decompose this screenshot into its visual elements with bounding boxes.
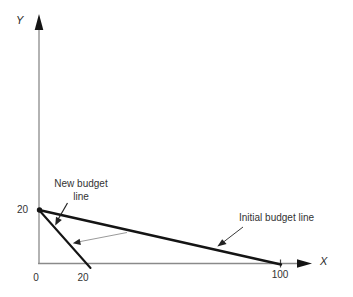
- chart-canvas: [0, 0, 353, 297]
- shift-arrow-shaft: [80, 233, 127, 242]
- y-axis-arrowhead-icon: [35, 14, 44, 30]
- x-tick-label-100: 100: [266, 269, 294, 280]
- x-axis-label: X: [320, 256, 327, 267]
- shift-arrowhead-icon: [73, 239, 81, 245]
- x-tick-label-0: 0: [28, 272, 44, 283]
- initial-budget-line-annotation: Initial budget line: [239, 212, 314, 223]
- new-budget-line-annotation-line1: New budget: [54, 178, 107, 189]
- intercept-point-marker: [37, 207, 42, 212]
- new-budget-line-annotation-line2: line: [73, 191, 89, 202]
- new-budget-line-annotation: New budget line: [48, 177, 114, 203]
- budget-line-chart: Y X 20 0 20 100 New budget line Initial …: [0, 0, 353, 297]
- x-axis-arrowhead-icon: [297, 259, 312, 268]
- initial-budget-label-arrow-shaft: [224, 227, 244, 242]
- x-tick-label-20: 20: [73, 272, 93, 283]
- y-axis-label: Y: [16, 15, 23, 26]
- y-tick-label-20: 20: [0, 204, 28, 215]
